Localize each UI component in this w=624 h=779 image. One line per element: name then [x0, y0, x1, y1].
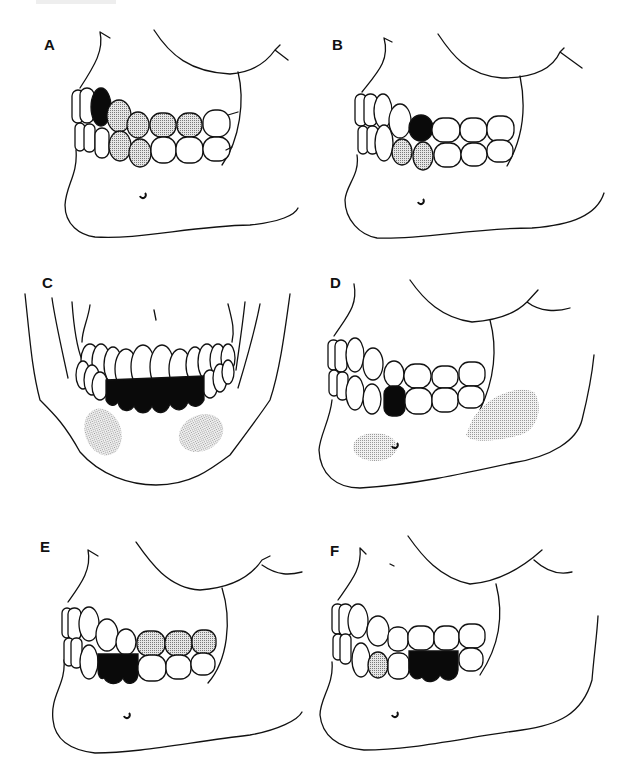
panel-f: F — [312, 520, 624, 779]
lateral-jaw-drawing — [312, 520, 624, 779]
lateral-jaw-drawing — [312, 260, 624, 520]
lateral-jaw-drawing — [312, 0, 624, 260]
lateral-jaw-drawing — [0, 0, 312, 260]
panel-a: A — [0, 0, 312, 260]
panel-b: B — [312, 0, 624, 260]
panel-c: C — [0, 260, 312, 520]
panel-e: E — [0, 520, 312, 779]
lateral-jaw-drawing — [0, 520, 312, 779]
panel-d: D — [312, 260, 624, 520]
frontal-jaw-drawing — [0, 260, 312, 520]
